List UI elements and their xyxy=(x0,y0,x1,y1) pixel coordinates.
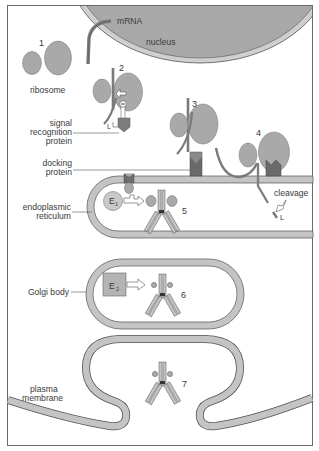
label-docking-2: protein xyxy=(46,167,72,177)
svg-text:2: 2 xyxy=(116,286,119,292)
step-number-4: 4 xyxy=(256,128,261,138)
label-srp-3: protein xyxy=(46,136,72,146)
label-nucleus: nucleus xyxy=(146,37,176,47)
svg-text:1: 1 xyxy=(115,201,118,207)
label-mrna: mRNA xyxy=(117,16,143,26)
label-cleavage: cleavage xyxy=(274,188,309,198)
label-leader-srp: L xyxy=(107,123,111,130)
label-er-2: reticulum xyxy=(36,211,71,221)
step-number-6: 6 xyxy=(181,290,186,300)
step-number-2: 2 xyxy=(119,63,124,73)
svg-text:E: E xyxy=(109,281,115,291)
step-number-5: 5 xyxy=(182,206,187,216)
label-golgi: Golgi body xyxy=(28,287,70,297)
protein-secretion-diagram: mRNA nucleus 1 ribosome 2 L signal recog… xyxy=(0,0,319,451)
step-number-1: 1 xyxy=(39,38,44,48)
label-ribosome: ribosome xyxy=(30,85,66,95)
label-leader: L xyxy=(280,213,284,222)
step-number-7: 7 xyxy=(182,379,187,389)
label-plasma-2: membrane xyxy=(22,393,63,403)
